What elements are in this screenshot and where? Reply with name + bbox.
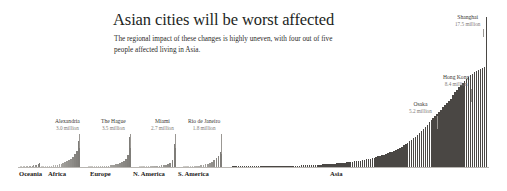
callout-leader-line: [221, 134, 222, 154]
city-callout-name: Hong Kong: [443, 74, 469, 81]
city-callout-name: The Hague: [101, 118, 126, 125]
chart-plot-area: OceaniaAfricaEuropeN. AmericaS. AmericaA…: [0, 0, 507, 191]
region-label-n--america: N. America: [133, 170, 165, 177]
city-callout-value: 3.0 million: [55, 125, 80, 132]
city-callout-miami: Miami2.7 million: [151, 118, 174, 132]
region-label-s--america: S. America: [178, 170, 209, 177]
city-callout-value: 2.7 million: [151, 125, 174, 132]
city-callout-value: 5.2 million: [409, 108, 432, 115]
city-callout-name: Osaka: [409, 101, 432, 108]
city-callout-alexandria: Alexandria3.0 million: [55, 118, 80, 132]
city-callout-value: 1.8 million: [188, 125, 220, 132]
bar: [486, 17, 488, 167]
city-callout-value: 17.5 million: [455, 21, 480, 28]
callout-leader-line: [79, 134, 80, 148]
region-label-oceania: Oceania: [19, 170, 42, 177]
city-callout-name: Rio de Janeiro: [188, 118, 220, 125]
city-callout-value: 8.4 million: [443, 81, 469, 88]
callout-leader-line: [437, 116, 438, 129]
city-callout-rio-de-janeiro: Rio de Janeiro1.8 million: [188, 118, 220, 132]
city-callout-value: 3.5 million: [101, 125, 126, 132]
chart-root: Asian cities will be worst affected The …: [0, 0, 507, 191]
callout-leader-line: [483, 29, 484, 37]
city-callout-osaka: Osaka5.2 million: [409, 101, 432, 115]
region-label-africa: Africa: [48, 170, 66, 177]
city-callout-shanghai: Shanghai17.5 million: [455, 14, 480, 28]
region-label-asia: Asia: [330, 170, 342, 177]
city-callout-hong-kong: Hong Kong8.4 million: [443, 74, 469, 88]
city-callout-name: Shanghai: [455, 14, 480, 21]
axis-baseline: [18, 167, 489, 168]
city-callout-name: Alexandria: [55, 118, 80, 125]
city-callout-the-hague: The Hague3.5 million: [101, 118, 126, 132]
callout-leader-line: [175, 134, 176, 148]
callout-leader-line: [130, 134, 131, 148]
city-callout-name: Miami: [151, 118, 174, 125]
bar-cluster-asia: [0, 17, 507, 167]
region-label-europe: Europe: [90, 170, 111, 177]
callout-leader-line: [471, 89, 472, 102]
